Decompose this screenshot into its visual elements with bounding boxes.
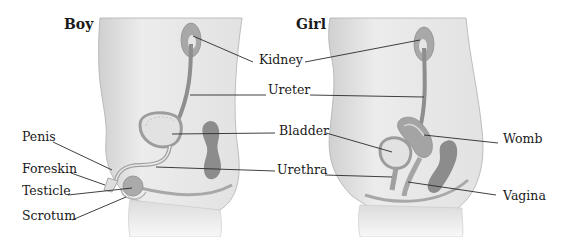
girl-body bbox=[329, 18, 483, 237]
label-womb: Womb bbox=[503, 133, 542, 146]
panel-title-boy: Boy bbox=[64, 17, 93, 31]
label-penis: Penis bbox=[22, 131, 56, 144]
label-bladder: Bladder bbox=[279, 125, 329, 138]
label-urethra: Urethra bbox=[277, 164, 327, 177]
label-scrotum: Scrotum bbox=[22, 210, 76, 223]
label-kidney: Kidney bbox=[259, 54, 303, 67]
panel-title-girl: Girl bbox=[296, 17, 326, 31]
label-ureter: Ureter bbox=[268, 84, 310, 97]
anatomy-diagram: Boy Girl Kidney Ureter Bladder Urethra P… bbox=[0, 0, 565, 237]
label-vagina: Vagina bbox=[503, 190, 546, 203]
boy-body bbox=[99, 18, 242, 237]
anatomy-illustration bbox=[0, 0, 565, 237]
label-testicle: Testicle bbox=[22, 185, 71, 198]
label-foreskin: Foreskin bbox=[22, 163, 77, 176]
